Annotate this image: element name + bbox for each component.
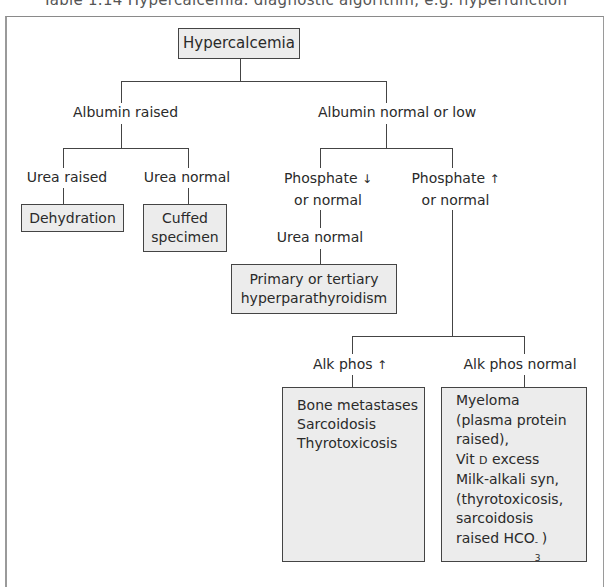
root-label: Hypercalcemia (183, 34, 295, 53)
hyperparathyroidism-box: Primary or tertiary hyperparathyroidism (231, 264, 397, 314)
result-milk-alkali: Milk-alkali syn, (456, 470, 586, 490)
connector (188, 188, 189, 204)
connector (524, 336, 525, 354)
connector (188, 148, 189, 168)
result-vit-d-excess: Vit D excess (456, 450, 586, 471)
connector (386, 124, 387, 148)
alk-normal-result-box: Myeloma (plasma protein raised), Vit D e… (441, 387, 587, 562)
dehydration-box: Dehydration (21, 204, 124, 232)
result-sarcoidosis: Sarcoidosis (297, 415, 424, 434)
urea-raised-label: Urea raised (22, 168, 112, 187)
connector (63, 148, 189, 149)
alk-phos-high-label: Alk phos ↑ (295, 355, 405, 375)
result-line: sarcoidosis (456, 509, 586, 529)
connector (63, 148, 64, 168)
cuffed-line2: specimen (151, 228, 219, 247)
urea-normal-label-mid: Urea normal (270, 228, 370, 247)
connector (121, 124, 122, 148)
result-line: (thyrotoxicosis, (456, 490, 586, 510)
result-line: raised), (456, 430, 586, 450)
connector (240, 59, 241, 81)
cropped-caption: Table 1.14 Hypercalcemia: diagnostic alg… (0, 0, 610, 9)
cuffed-line1: Cuffed (162, 209, 208, 228)
connector (320, 148, 321, 168)
connector (320, 148, 453, 149)
arrow-down-icon: ↓ (362, 172, 372, 186)
hpt-line2: hyperparathyroidism (241, 289, 387, 308)
arrow-up-icon: ↑ (490, 172, 500, 186)
albumin-normal-label: Albumin normal or low (318, 103, 458, 122)
connector (320, 249, 321, 264)
hypercalcemia-box: Hypercalcemia (178, 28, 300, 59)
connector (352, 375, 353, 387)
connector (121, 81, 387, 82)
dehydration-label: Dehydration (29, 209, 116, 228)
hpt-line1: Primary or tertiary (249, 270, 378, 289)
alk-phos-normal-label: Alk phos normal (450, 355, 590, 374)
phosphate-high-label: Phosphate ↑ or normal (398, 168, 513, 211)
result-thyrotoxicosis: Thyrotoxicosis (297, 434, 424, 453)
connector (386, 81, 387, 103)
phosphate-low-label: Phosphate ↓ or normal (268, 168, 388, 211)
connector (524, 375, 525, 387)
urea-normal-label-left: Urea normal (137, 168, 237, 187)
connector (452, 210, 453, 336)
result-line: (plasma protein (456, 411, 586, 431)
result-myeloma: Myeloma (456, 391, 586, 411)
cuffed-specimen-box: Cuffed specimen (143, 204, 227, 252)
result-raised-hco3: raised HCO-3) (456, 529, 586, 549)
result-bone-metastases: Bone metastases (297, 396, 424, 415)
connector (121, 81, 122, 103)
albumin-raised-label: Albumin raised (73, 103, 173, 122)
connector (352, 336, 353, 354)
connector (320, 210, 321, 228)
alk-high-result-box: Bone metastases Sarcoidosis Thyrotoxicos… (282, 387, 425, 562)
connector (452, 148, 453, 168)
connector (63, 188, 64, 204)
arrow-up-icon: ↑ (377, 358, 387, 372)
connector (352, 336, 524, 337)
